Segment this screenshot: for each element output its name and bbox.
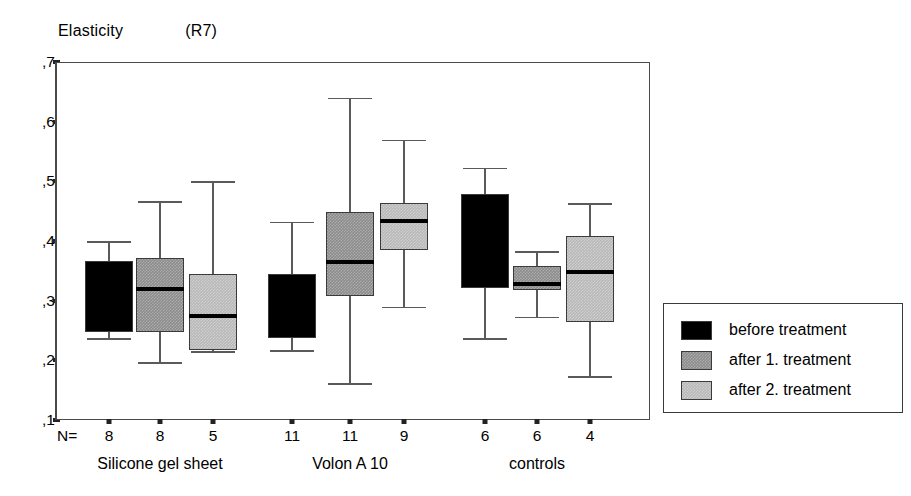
median-line (380, 219, 428, 223)
y-axis-tick-label: ,3 (0, 292, 55, 310)
upper-whisker-cap (270, 222, 314, 224)
lower-whisker-cap (463, 338, 507, 340)
lower-whisker-line (291, 338, 293, 351)
y-axis-tick-label: ,4 (0, 232, 55, 250)
legend-item: before treatment (664, 315, 902, 345)
x-axis-tick-mark (402, 419, 407, 424)
upper-whisker-cap (138, 201, 182, 203)
legend-swatch (681, 321, 712, 340)
upper-whisker-cap (328, 98, 372, 100)
sample-size-label: 9 (400, 427, 409, 445)
box-iqr-rect (268, 274, 316, 338)
upper-whisker-cap (382, 140, 426, 142)
x-axis-tick-mark (211, 419, 216, 424)
lower-whisker-cap (515, 317, 559, 319)
sample-size-label: 8 (105, 427, 114, 445)
group-label: Silicone gel sheet (97, 455, 222, 473)
sample-size-label: 5 (209, 427, 218, 445)
lower-whisker-line (589, 322, 591, 377)
lower-whisker-line (159, 332, 161, 362)
lower-whisker-cap (87, 338, 131, 340)
sample-size-label: 4 (586, 427, 595, 445)
box-iqr-rect (136, 258, 184, 332)
lower-whisker-cap (270, 350, 314, 352)
x-axis-tick-mark (348, 419, 353, 424)
lower-whisker-cap (191, 351, 235, 353)
lower-whisker-cap (568, 376, 612, 378)
upper-whisker-cap (515, 251, 559, 253)
lower-whisker-line (349, 296, 351, 383)
x-axis-tick-mark (158, 419, 163, 424)
upper-whisker-line (484, 168, 486, 195)
upper-whisker-cap (568, 203, 612, 205)
x-axis-tick-mark (290, 419, 295, 424)
upper-whisker-cap (463, 168, 507, 170)
box-iqr-rect (380, 203, 428, 250)
y-axis-tick-label: ,1 (0, 411, 55, 429)
x-axis-tick-mark (483, 419, 488, 424)
y-axis-tick-label: ,7 (0, 53, 55, 71)
upper-whisker-cap (87, 241, 131, 243)
upper-whisker-line (108, 241, 110, 261)
x-axis-tick-mark (588, 419, 593, 424)
median-line (189, 314, 237, 318)
lower-whisker-line (536, 290, 538, 317)
chart-title-text: Elasticity (58, 22, 123, 39)
box-iqr-rect (461, 194, 509, 287)
legend-item: after 1. treatment (664, 345, 902, 375)
x-axis-tick-mark (107, 419, 112, 424)
upper-whisker-line (403, 140, 405, 204)
upper-whisker-cap (191, 181, 235, 183)
sample-size-label: 11 (342, 427, 358, 445)
group-label: Volon A 10 (312, 455, 388, 473)
lower-whisker-line (484, 288, 486, 339)
upper-whisker-line (291, 222, 293, 274)
y-axis-tick-label: ,2 (0, 351, 55, 369)
lower-whisker-cap (382, 307, 426, 309)
chart-title-units: (R7) (185, 22, 217, 40)
median-line (513, 282, 561, 286)
legend: before treatmentafter 1. treatmentafter … (663, 303, 903, 413)
chart-title: Elasticity(R7) (58, 22, 217, 40)
box-iqr-rect (85, 261, 133, 332)
y-axis-tick-label: ,5 (0, 172, 55, 190)
lower-whisker-cap (138, 362, 182, 364)
legend-swatch (681, 351, 712, 370)
legend-swatch (681, 381, 712, 400)
upper-whisker-line (536, 251, 538, 266)
y-axis-tick-label: ,6 (0, 113, 55, 131)
sample-size-label: 11 (284, 427, 300, 445)
x-axis-tick-mark (535, 419, 540, 424)
median-line (326, 260, 374, 264)
upper-whisker-line (159, 201, 161, 258)
boxplot-figure: Elasticity(R7) ,7,6,5,4,3,2,1 885Silicon… (0, 0, 911, 496)
sample-size-label: 6 (533, 427, 542, 445)
legend-label: before treatment (729, 321, 846, 339)
box-iqr-rect (189, 274, 237, 350)
upper-whisker-line (349, 98, 351, 213)
box-iqr-rect (513, 266, 561, 290)
upper-whisker-line (589, 203, 591, 236)
median-line (566, 270, 614, 274)
legend-label: after 2. treatment (729, 381, 851, 399)
lower-whisker-line (403, 250, 405, 307)
box-iqr-rect (566, 236, 614, 321)
lower-whisker-cap (328, 383, 372, 385)
n-row-prefix: N= (57, 427, 77, 445)
sample-size-label: 8 (156, 427, 165, 445)
upper-whisker-line (212, 181, 214, 273)
legend-item: after 2. treatment (664, 375, 902, 405)
box-iqr-rect (326, 212, 374, 296)
group-label: controls (509, 455, 565, 473)
legend-label: after 1. treatment (729, 351, 851, 369)
median-line (136, 287, 184, 291)
sample-size-label: 6 (481, 427, 490, 445)
